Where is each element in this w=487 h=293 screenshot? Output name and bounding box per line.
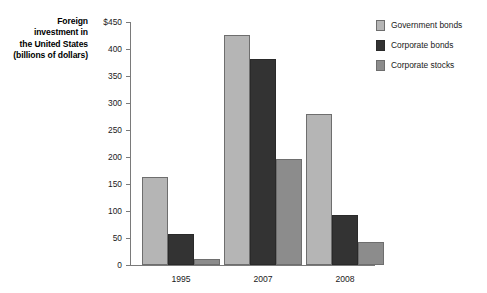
y-axis-title-line-2: investment in (0, 27, 88, 38)
y-axis-tick-mark (126, 49, 130, 50)
bar-2007-corporate-stocks (276, 159, 302, 265)
bar-2007-corporate-bonds (250, 59, 276, 265)
y-axis-tick-label: 350 (108, 71, 122, 81)
y-axis-tick-mark (126, 157, 130, 158)
legend-label: Government bonds (391, 20, 462, 30)
legend-item-government-bonds: Government bonds (376, 15, 487, 35)
x-axis-line (130, 265, 375, 266)
legend-label: Corporate bonds (391, 40, 453, 50)
y-axis-tick-mark (126, 130, 130, 131)
y-axis-tick-label: $450 (103, 17, 122, 27)
y-axis-tick-mark (126, 103, 130, 104)
y-axis-title-line-1: Foreign (0, 16, 88, 27)
x-axis-label-2008: 2008 (335, 274, 354, 284)
bar-1995-corporate-stocks (194, 259, 220, 265)
bar-2007-government-bonds (224, 35, 250, 265)
bar-2008-government-bonds (306, 114, 332, 265)
chart-legend: Government bondsCorporate bondsCorporate… (376, 15, 487, 75)
y-axis-title-line-3: the United States (0, 39, 88, 50)
y-axis-tick-label: 250 (108, 125, 122, 135)
y-axis-tick-mark (126, 211, 130, 212)
bar-chart-figure: Foreign investment in the United States … (0, 0, 487, 293)
bar-1995-government-bonds (142, 177, 168, 265)
y-axis-line (130, 22, 131, 265)
y-axis-tick-label: 0 (117, 260, 122, 270)
y-axis-tick-mark (126, 22, 130, 23)
y-axis-tick-mark (126, 265, 130, 266)
legend-item-corporate-stocks: Corporate stocks (376, 55, 487, 75)
y-axis-tick-label: 200 (108, 152, 122, 162)
legend-swatch-corporate-stocks (376, 60, 385, 71)
y-axis-tick-mark (126, 238, 130, 239)
legend-label: Corporate stocks (391, 60, 454, 70)
plot-area: 050100150200250300350400$450 19952007200… (130, 22, 375, 265)
y-axis-tick-label: 100 (108, 206, 122, 216)
bar-2008-corporate-stocks (358, 242, 384, 265)
y-axis-title: Foreign investment in the United States … (0, 16, 88, 62)
y-axis-title-line-4: (billions of dollars) (0, 50, 88, 61)
bar-1995-corporate-bonds (168, 234, 194, 265)
x-axis-label-2007: 2007 (253, 274, 272, 284)
legend-item-corporate-bonds: Corporate bonds (376, 35, 487, 55)
bar-2008-corporate-bonds (332, 215, 358, 265)
legend-swatch-corporate-bonds (376, 40, 385, 51)
x-axis-label-1995: 1995 (171, 274, 190, 284)
y-axis-tick-mark (126, 184, 130, 185)
y-axis-tick-label: 150 (108, 179, 122, 189)
legend-swatch-government-bonds (376, 20, 385, 31)
y-axis-tick-label: 300 (108, 98, 122, 108)
y-axis-tick-label: 50 (113, 233, 122, 243)
y-axis-tick-label: 400 (108, 44, 122, 54)
y-axis-tick-mark (126, 76, 130, 77)
